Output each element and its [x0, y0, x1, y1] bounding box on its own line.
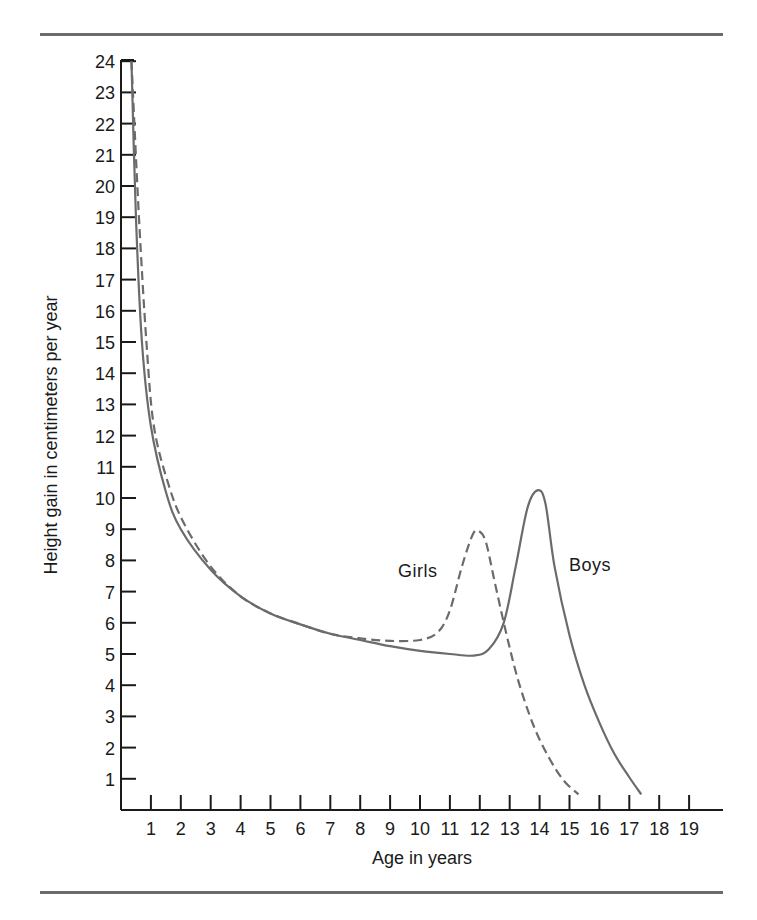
axes	[121, 60, 723, 810]
y-tick-label: 5	[105, 645, 115, 665]
girls-label: Girls	[398, 561, 438, 581]
x-tick-label: 15	[559, 819, 579, 839]
x-tick-label: 9	[385, 819, 395, 839]
x-tick-label: 19	[679, 819, 699, 839]
x-tick-label: 7	[325, 819, 335, 839]
x-tick-label: 13	[500, 819, 520, 839]
y-tick-label: 17	[95, 271, 115, 291]
girls-curve	[131, 61, 578, 794]
y-tick-label: 21	[95, 146, 115, 166]
y-tick-label: 15	[95, 333, 115, 353]
y-axis-title: Height gain in centimeters per year	[41, 295, 61, 574]
y-tick-label: 18	[95, 239, 115, 259]
y-tick-label: 8	[105, 551, 115, 571]
y-ticks: 123456789101112131415161718192021222324	[95, 52, 136, 790]
x-tick-label: 17	[619, 819, 639, 839]
y-tick-label: 7	[105, 583, 115, 603]
y-tick-label: 23	[95, 83, 115, 103]
series	[131, 61, 641, 794]
x-tick-label: 10	[410, 819, 430, 839]
boys-curve	[131, 61, 641, 794]
x-tick-label: 8	[355, 819, 365, 839]
x-axis-title: Age in years	[372, 848, 472, 868]
y-tick-label: 12	[95, 427, 115, 447]
x-tick-label: 12	[470, 819, 490, 839]
x-tick-label: 3	[206, 819, 216, 839]
x-tick-label: 2	[176, 819, 186, 839]
x-ticks: 12345678910111213141516171819	[146, 795, 699, 839]
y-tick-label: 3	[105, 707, 115, 727]
y-tick-label: 13	[95, 395, 115, 415]
y-tick-label: 10	[95, 489, 115, 509]
y-tick-label: 22	[95, 115, 115, 135]
x-tick-label: 6	[295, 819, 305, 839]
y-tick-label: 1	[105, 770, 115, 790]
y-tick-label: 6	[105, 614, 115, 634]
y-tick-label: 16	[95, 302, 115, 322]
x-tick-label: 14	[530, 819, 550, 839]
y-tick-label: 19	[95, 208, 115, 228]
y-tick-label: 24	[95, 52, 115, 72]
y-tick-label: 11	[96, 458, 115, 478]
y-tick-label: 20	[95, 177, 115, 197]
x-tick-label: 4	[236, 819, 246, 839]
x-tick-label: 11	[441, 819, 460, 839]
x-tick-label: 16	[589, 819, 609, 839]
boys-label: Boys	[569, 555, 611, 575]
x-tick-label: 1	[146, 819, 156, 839]
y-tick-label: 2	[105, 739, 115, 759]
y-tick-label: 9	[105, 520, 115, 540]
y-tick-label: 4	[105, 676, 115, 696]
growth-velocity-chart: 123456789101112131415161718192021222324 …	[0, 0, 757, 920]
x-tick-label: 18	[649, 819, 669, 839]
y-tick-label: 14	[95, 364, 115, 384]
x-tick-label: 5	[265, 819, 275, 839]
